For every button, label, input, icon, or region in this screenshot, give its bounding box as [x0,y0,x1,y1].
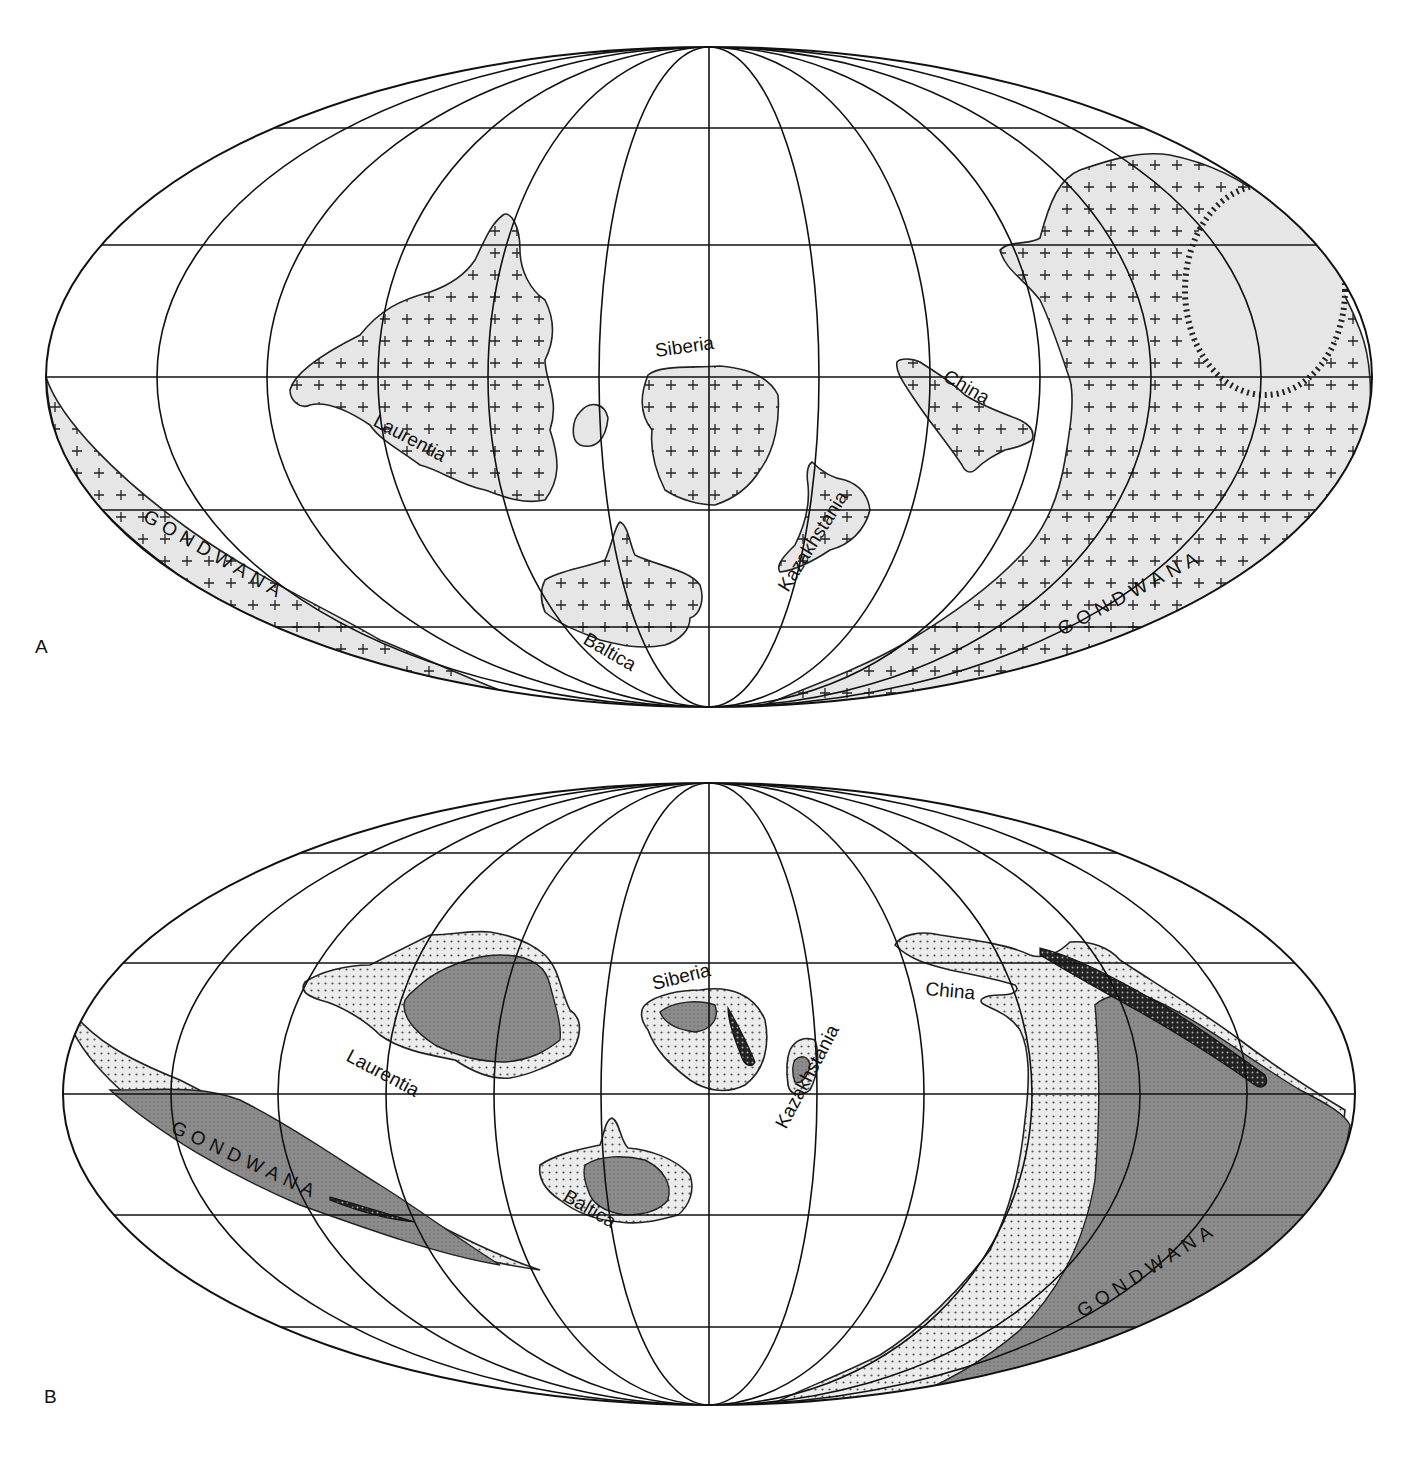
label-siberia-b: Siberia [650,959,713,994]
label-kazakhstania-b: Kazakhstania [771,1021,843,1132]
figure-canvas: Laurentia Siberia China Kazakhstania Bal… [0,0,1409,1458]
siberia-landmass [642,366,778,505]
graticule-a [0,40,1409,715]
panel-b-map: Laurentia Siberia China Kazakhstania Bal… [0,775,1409,1412]
panel-a-map: Laurentia Siberia China Kazakhstania Bal… [0,40,1409,715]
label-laurentia-b: Laurentia [343,1045,423,1101]
label-siberia-a: Siberia [654,332,716,361]
laurentia-island [573,405,608,447]
panel-letter-a: A [35,636,48,658]
graticule-b [0,775,1409,1412]
gondwana-hatched-basin [1185,185,1345,395]
label-china-b: China [925,978,977,1003]
laurentia-landmass [290,214,557,501]
panel-letter-b: B [44,1386,57,1408]
